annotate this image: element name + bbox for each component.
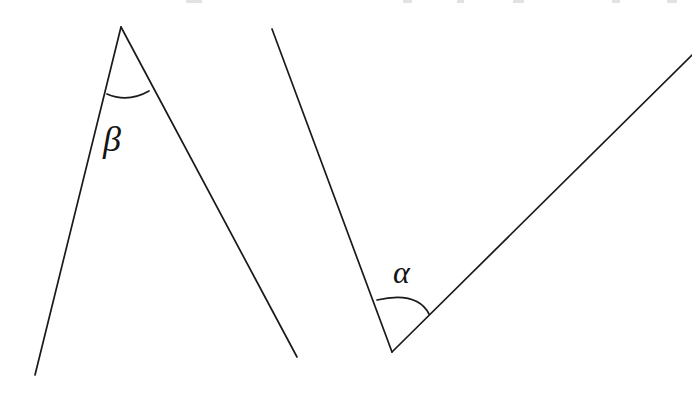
geometry-figure: β α: [0, 0, 692, 399]
text-remnant: [612, 0, 620, 3]
angle-diagram-svg: [0, 0, 692, 399]
text-remnant: [186, 0, 202, 3]
beta-angle-label: β: [103, 121, 121, 157]
beta-figure-group: [35, 27, 297, 375]
beta-angle-arc: [107, 91, 149, 98]
beta-left-leg: [35, 27, 121, 375]
alpha-figure-group: [272, 29, 692, 352]
beta-right-leg: [121, 27, 297, 357]
text-remnant: [403, 0, 412, 3]
alpha-angle-arc: [377, 297, 429, 314]
text-remnant: [457, 0, 464, 3]
text-remnant: [513, 0, 524, 3]
text-remnant: [667, 0, 677, 3]
alpha-angle-label: α: [393, 256, 410, 288]
alpha-left-ray: [272, 29, 392, 352]
alpha-right-ray: [392, 55, 692, 352]
